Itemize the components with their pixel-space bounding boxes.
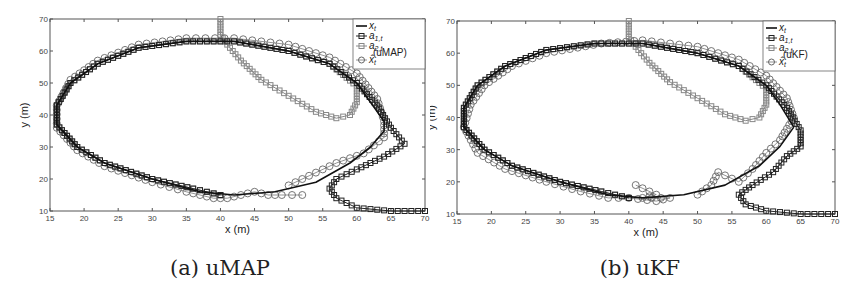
x-tick-label: 55 xyxy=(318,214,327,223)
y-tick-label: 20 xyxy=(446,178,455,187)
x-tick-label: 30 xyxy=(148,214,157,223)
y-tick-label: 10 xyxy=(446,210,455,219)
x-tick-label: 65 xyxy=(386,214,395,223)
x-tick-label: 70 xyxy=(831,217,840,226)
x-tick-label: 30 xyxy=(556,217,565,226)
x-tick-label: 40 xyxy=(216,214,225,223)
x-axis-label: x (m) xyxy=(225,223,250,235)
x-tick-label: 25 xyxy=(114,214,123,223)
x-tick-label: 40 xyxy=(624,217,633,226)
x-tick-label: 55 xyxy=(727,217,736,226)
legend: xta1,ta2,tx̂t(uMAP) xyxy=(353,19,425,69)
y-axis-label: y (m) xyxy=(430,105,437,130)
y-tick-label: 30 xyxy=(39,143,48,152)
y-tick-label: 60 xyxy=(446,49,455,58)
y-tick-label: 40 xyxy=(446,114,455,123)
x-tick-label: 50 xyxy=(693,217,702,226)
y-tick-label: 60 xyxy=(39,47,48,56)
x-tick-label: 35 xyxy=(182,214,191,223)
chart-ukf: 15202530354045505560657010203040506070x … xyxy=(430,0,861,260)
legend: xta1,ta2,tx̂t(uKF) xyxy=(763,21,835,71)
x-tick-label: 20 xyxy=(487,217,496,226)
x-tick-label: 70 xyxy=(421,214,430,223)
x-tick-label: 50 xyxy=(284,214,293,223)
x-tick-label: 35 xyxy=(590,217,599,226)
x-tick-label: 20 xyxy=(80,214,89,223)
x-tick-label: 60 xyxy=(352,214,361,223)
y-tick-label: 70 xyxy=(39,15,48,24)
y-tick-label: 20 xyxy=(39,175,48,184)
y-tick-label: 70 xyxy=(446,17,455,26)
y-axis-label: y (m) xyxy=(18,102,30,127)
x-tick-label: 65 xyxy=(796,217,805,226)
caption-a: (a) uMAP xyxy=(140,256,300,280)
caption-b: (b) uKF xyxy=(560,256,720,280)
y-tick-label: 10 xyxy=(39,207,48,216)
y-tick-label: 40 xyxy=(39,111,48,120)
panel-a: 15202530354045505560657010203040506070x … xyxy=(0,0,430,300)
x-tick-label: 45 xyxy=(250,214,259,223)
panel-b: 15202530354045505560657010203040506070x … xyxy=(430,0,861,300)
x-tick-label: 25 xyxy=(521,217,530,226)
x-tick-label: 60 xyxy=(762,217,771,226)
y-tick-label: 30 xyxy=(446,146,455,155)
y-tick-label: 50 xyxy=(446,81,455,90)
x-tick-label: 45 xyxy=(659,217,668,226)
x-axis-label: x (m) xyxy=(633,226,658,238)
chart-umap: 15202530354045505560657010203040506070x … xyxy=(0,0,430,260)
y-tick-label: 50 xyxy=(39,79,48,88)
